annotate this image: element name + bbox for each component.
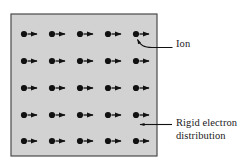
ion-dot (77, 58, 83, 64)
annotation-label-ion-text: Ion (176, 38, 190, 49)
ion-dot (21, 58, 27, 64)
annotation-label-ion: Ion (176, 38, 190, 51)
ion-dot (133, 112, 139, 118)
ion-dot (49, 85, 55, 91)
annotation-label-rigid-line2: distribution (176, 130, 226, 141)
ion-dot (49, 58, 55, 64)
ion-dot (105, 138, 111, 144)
ion-dot (21, 112, 27, 118)
ion-dot (133, 85, 139, 91)
annotation-label-rigid-line1: Rigid electron (176, 117, 237, 128)
ion-dot (133, 138, 139, 144)
ion-dot (21, 138, 27, 144)
figure-root: Ion Rigid electrondistribution (0, 0, 241, 168)
ion-dot (105, 85, 111, 91)
ion-dot (21, 85, 27, 91)
annotation-label-rigid-electron-distribution: Rigid electrondistribution (176, 117, 237, 142)
ion-dot (77, 138, 83, 144)
ion-dot (105, 112, 111, 118)
ion-dot (49, 31, 55, 37)
lattice-diagram-svg (0, 0, 241, 168)
ion-dot (133, 31, 139, 37)
ion-dot (105, 58, 111, 64)
ion-dot (77, 112, 83, 118)
ion-dot (77, 31, 83, 37)
ion-dot (49, 112, 55, 118)
ion-dot (105, 31, 111, 37)
ion-dot (21, 31, 27, 37)
ion-dot (49, 138, 55, 144)
ion-dot (77, 85, 83, 91)
ion-dot (133, 58, 139, 64)
